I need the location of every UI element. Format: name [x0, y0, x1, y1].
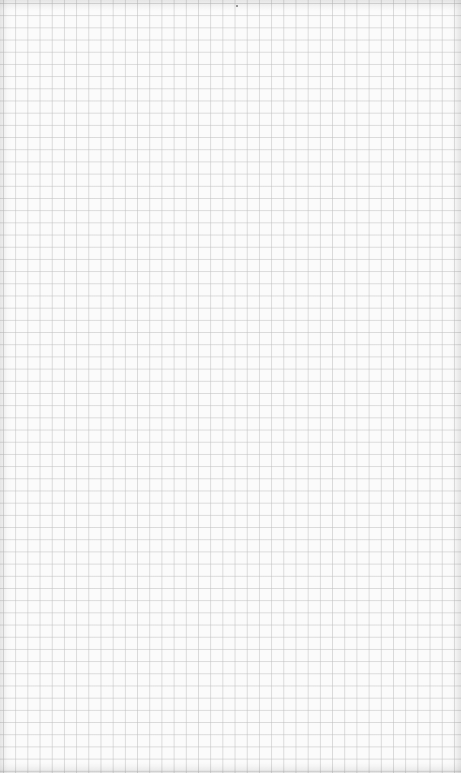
- paper-edge-shading: [0, 0, 461, 773]
- graph-paper-sheet: [0, 0, 461, 773]
- paper-speck: [236, 5, 238, 7]
